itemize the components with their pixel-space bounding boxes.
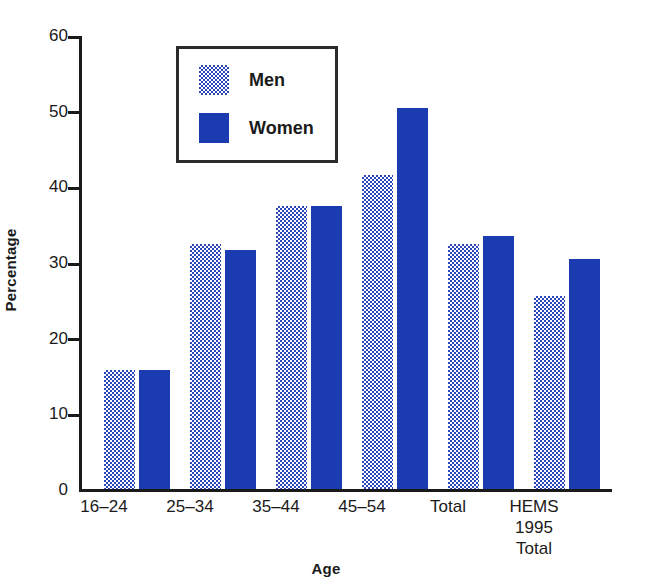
bar-women-1[interactable] — [225, 250, 256, 489]
bar-men-4[interactable] — [448, 244, 479, 489]
y-tick-10 — [68, 414, 80, 417]
y-axis-title: Percentage — [2, 180, 19, 360]
legend-item-men[interactable]: Men — [199, 63, 285, 97]
bar-men-5[interactable] — [534, 296, 565, 489]
bar-men-1[interactable] — [190, 244, 221, 489]
x-axis-title: Age — [0, 560, 652, 577]
y-tick-label-40: 40 — [28, 178, 68, 195]
bar-men-3[interactable] — [362, 175, 393, 489]
bar-women-4[interactable] — [483, 236, 514, 489]
bar-men-0[interactable] — [104, 370, 135, 489]
legend-swatch-women-icon — [199, 113, 229, 143]
y-tick-30 — [68, 263, 80, 266]
y-tick-50 — [68, 111, 80, 114]
y-tick-20 — [68, 338, 80, 341]
legend: Men Women — [176, 46, 338, 163]
plot-area — [82, 36, 610, 489]
x-tick-label-5: HEMS 1995 Total — [474, 496, 594, 559]
y-tick-label-10: 10 — [28, 405, 68, 422]
bar-women-0[interactable] — [139, 370, 170, 489]
bar-chart: Percentage 60 50 40 30 20 10 0 — [0, 0, 652, 588]
y-tick-40 — [68, 187, 80, 190]
bar-women-2[interactable] — [311, 206, 342, 489]
y-tick-label-30: 30 — [28, 254, 68, 271]
y-tick-label-60: 60 — [28, 27, 68, 44]
legend-item-women[interactable]: Women — [199, 111, 314, 145]
y-tick-60 — [68, 36, 80, 39]
y-tick-label-20: 20 — [28, 330, 68, 347]
legend-label-men: Men — [249, 70, 285, 91]
x-tick-label-5-line-0: HEMS — [474, 496, 594, 517]
legend-swatch-men-icon — [199, 65, 229, 95]
x-tick-label-5-line-2: Total — [474, 538, 594, 559]
x-axis-line — [79, 489, 612, 492]
bar-women-5[interactable] — [569, 259, 600, 489]
y-tick-label-50: 50 — [28, 103, 68, 120]
legend-label-women: Women — [249, 118, 314, 139]
bar-men-2[interactable] — [276, 206, 307, 489]
x-tick-label-5-line-1: 1995 — [474, 517, 594, 538]
bar-women-3[interactable] — [397, 108, 428, 489]
